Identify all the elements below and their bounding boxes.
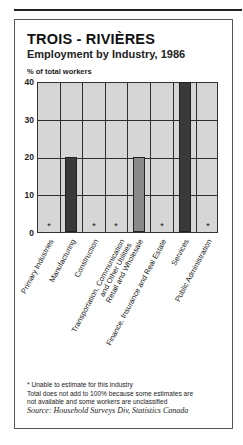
- column-divider: [105, 83, 106, 232]
- bar-services: [179, 82, 191, 232]
- chart-subtitle: Employment by Industry, 1986: [27, 48, 185, 60]
- top-rule: [14, 9, 242, 11]
- y-tick-0: 0: [22, 228, 34, 238]
- bar-retail-wholesale: [133, 157, 145, 232]
- y-tick-20: 20: [22, 152, 34, 162]
- unavailable-marker-construction: *: [92, 222, 96, 231]
- source-note: Source: Household Surveys Div, Statistic…: [27, 406, 188, 415]
- y-axis-label: % of total workers: [27, 67, 92, 76]
- footnote-total-line2: not available and some workers are uncla…: [27, 398, 167, 405]
- y-tick-10: 10: [22, 190, 34, 200]
- unavailable-marker-transportation: *: [114, 222, 118, 231]
- y-tick-40: 40: [22, 77, 34, 87]
- chart-title: TROIS - RIVIÈRES: [27, 31, 155, 47]
- y-tick-30: 30: [22, 115, 34, 125]
- plot-area: * * * * *: [37, 82, 218, 233]
- unavailable-marker-finance: *: [160, 222, 164, 231]
- column-divider: [60, 83, 61, 232]
- column-divider: [127, 83, 128, 232]
- bar-manufacturing: [65, 157, 77, 232]
- column-divider: [196, 83, 197, 232]
- unavailable-marker-public-admin: *: [206, 222, 210, 231]
- column-divider: [82, 83, 83, 232]
- footnote-unavailable: * Unable to estimate for this industry: [27, 381, 133, 388]
- column-divider: [173, 83, 174, 232]
- footnote-total-line1: Total does not add to 100% because some …: [27, 390, 193, 397]
- unavailable-marker-primary: *: [47, 222, 51, 231]
- column-divider: [150, 83, 151, 232]
